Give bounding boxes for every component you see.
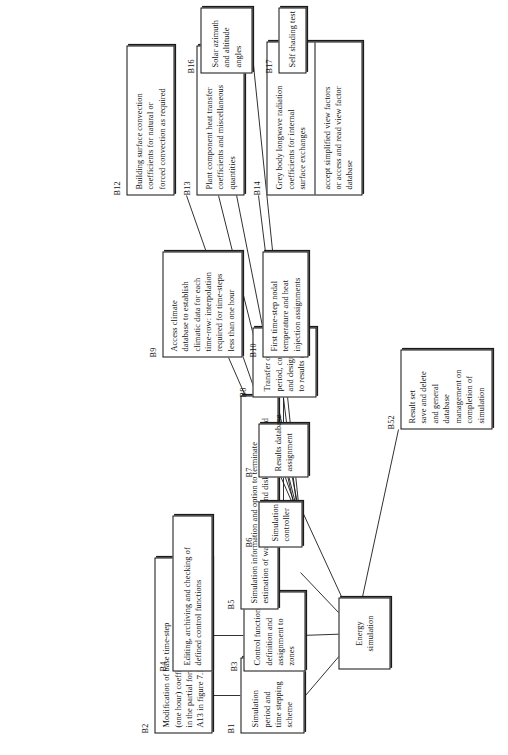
node-line: temperature and heat <box>279 257 290 351</box>
node-line: database to establish <box>179 257 190 351</box>
node-line: controller <box>280 507 291 541</box>
node-b4[interactable]: Editing, archiving and checking of defin… <box>172 515 212 671</box>
node-line: Editing, archiving and checking of <box>181 521 192 665</box>
node-line: and general <box>429 355 440 423</box>
node-line: time-row: interpolation <box>202 257 213 351</box>
diagram-canvas: Energy simulation B1 Simulation period a… <box>0 0 508 755</box>
node-line: zones <box>285 597 296 665</box>
node-line: angles <box>232 13 243 67</box>
node-line: required for time-steps <box>213 257 224 351</box>
node-line: save and delete <box>417 355 428 423</box>
node-line: forced convection as required <box>156 51 167 189</box>
node-b17[interactable]: Self shading test <box>278 7 306 73</box>
node-line: simulation <box>475 355 486 423</box>
node-line: less than one hour <box>225 257 236 351</box>
node-tag-b8: B8 <box>238 387 247 397</box>
node-line: Simulation information and option to ter… <box>248 401 259 603</box>
node-line: or access and read view factor <box>332 47 343 189</box>
node-line: First time-step nodal <box>268 257 279 351</box>
node-line: time stepping <box>272 663 283 727</box>
node-line: Energy <box>353 621 364 645</box>
node-line: Building surface convection <box>133 51 144 189</box>
node-line: database <box>343 47 354 189</box>
node-line: assignment <box>283 429 294 471</box>
node-line: completion of <box>463 355 474 423</box>
node-line: period and <box>261 663 272 727</box>
node-b10[interactable]: First time-step nodal temperature and he… <box>262 251 308 357</box>
node-line: Simulation <box>269 507 280 541</box>
node-tag-b10: B10 <box>248 343 257 357</box>
node-line: scheme <box>283 663 294 727</box>
node-line: and altitude <box>220 13 231 67</box>
node-b12[interactable]: Building surface convection coefficients… <box>126 45 174 195</box>
node-line: accept simplified view factors <box>321 47 332 189</box>
node-tag-b3: B3 <box>229 661 238 671</box>
node-tag-b16: B16 <box>186 59 195 73</box>
node-tag-b13: B13 <box>182 181 191 195</box>
node-line: simulation <box>364 615 375 651</box>
node-line: Access climate <box>168 257 179 351</box>
node-energy-simulation[interactable]: Energy simulation <box>338 597 390 669</box>
node-tag-b1: B1 <box>226 723 235 733</box>
node-line: Simulation <box>249 663 260 727</box>
node-tag-b7: B7 <box>244 467 253 477</box>
node-tag-b4: B4 <box>158 661 167 671</box>
node-b16[interactable]: Solar azimuth and altitude angles <box>200 7 252 73</box>
node-line: climatic data for each <box>191 257 202 351</box>
node-line: Solar azimuth <box>209 13 220 67</box>
node-b6[interactable]: Simulation controller <box>258 501 302 547</box>
node-tag-b2: B2 <box>140 723 149 733</box>
node-line: Self shading test <box>286 13 297 67</box>
node-line: Results database <box>272 429 283 471</box>
node-line: coefficients for natural or <box>144 51 155 189</box>
node-b9[interactable]: Access climate database to establish cli… <box>162 251 242 357</box>
node-line: Result set <box>406 355 417 423</box>
node-tag-b12: B12 <box>112 181 121 195</box>
node-tag-b52: B52 <box>386 415 395 429</box>
node-line: injection assignments <box>291 257 302 351</box>
node-line: management on <box>452 355 463 423</box>
node-tag-b9: B9 <box>148 347 157 357</box>
node-b14-cell-lower: accept simplified view factors or access… <box>314 42 362 194</box>
node-line: Modification of base time-step <box>160 563 171 727</box>
node-line: defined control functions <box>192 521 203 665</box>
node-tag-b14: B14 <box>252 181 261 195</box>
node-tag-b5: B5 <box>226 599 235 609</box>
node-tag-b17: B17 <box>264 59 273 73</box>
diagram-page: Energy simulation B1 Simulation period a… <box>0 0 508 755</box>
node-line: database <box>440 355 451 423</box>
node-b7[interactable]: Results database assignment <box>258 423 308 477</box>
node-b52[interactable]: Result set save and delete and general d… <box>400 349 492 429</box>
node-tag-b6: B6 <box>244 537 253 547</box>
